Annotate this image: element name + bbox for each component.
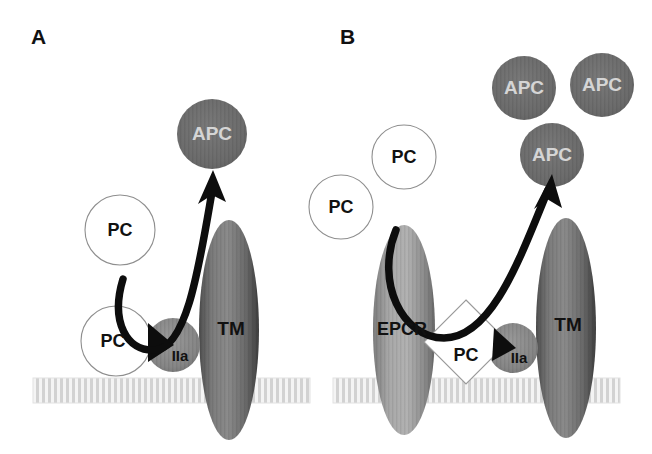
panel-b-tm-label: TM xyxy=(554,314,581,335)
panel-b-epcr-label: EPCR xyxy=(377,319,427,339)
panel-b-apc-top-right-label: APC xyxy=(582,74,622,95)
panel-a-iia-label: IIa xyxy=(172,347,189,364)
panel-a-pc-upper-label: PC xyxy=(107,220,132,240)
panel-a-label: A xyxy=(31,25,46,48)
panel-a-pc-lower-label: PC xyxy=(100,331,125,351)
panel-b-label: B xyxy=(340,25,355,48)
panel-b-apc-top-left-label: APC xyxy=(504,77,544,98)
panel-b-pc-lower-label: PC xyxy=(328,197,353,217)
protein-c-activation-diagram: A xyxy=(0,0,652,454)
panel-b-pc-diamond-label: PC xyxy=(453,345,478,365)
diagram-canvas: A xyxy=(0,0,652,454)
panel-b-pc-upper-label: PC xyxy=(391,147,416,167)
panel-b-apc-middle-label: APC xyxy=(532,144,572,165)
panel-a-apc-label: APC xyxy=(192,123,232,144)
panel-a-membrane xyxy=(33,378,310,403)
panel-a-tm-label: TM xyxy=(217,318,244,339)
panel-b-iia-label: IIa xyxy=(511,349,528,366)
